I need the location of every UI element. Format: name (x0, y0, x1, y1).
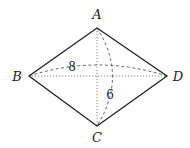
rhombus-diagram: A B C D 8 6 (0, 0, 190, 148)
length-label-bd: 8 (68, 60, 76, 74)
vertex-label-a: A (91, 7, 101, 22)
length-label-ac: 6 (106, 88, 114, 102)
arc-ac (97, 28, 113, 126)
vertex-label-c: C (92, 130, 102, 145)
arc-bd (29, 65, 167, 76)
rhombus-outline (29, 28, 167, 126)
vertex-label-b: B (11, 69, 22, 84)
vertex-label-d: D (172, 69, 184, 84)
